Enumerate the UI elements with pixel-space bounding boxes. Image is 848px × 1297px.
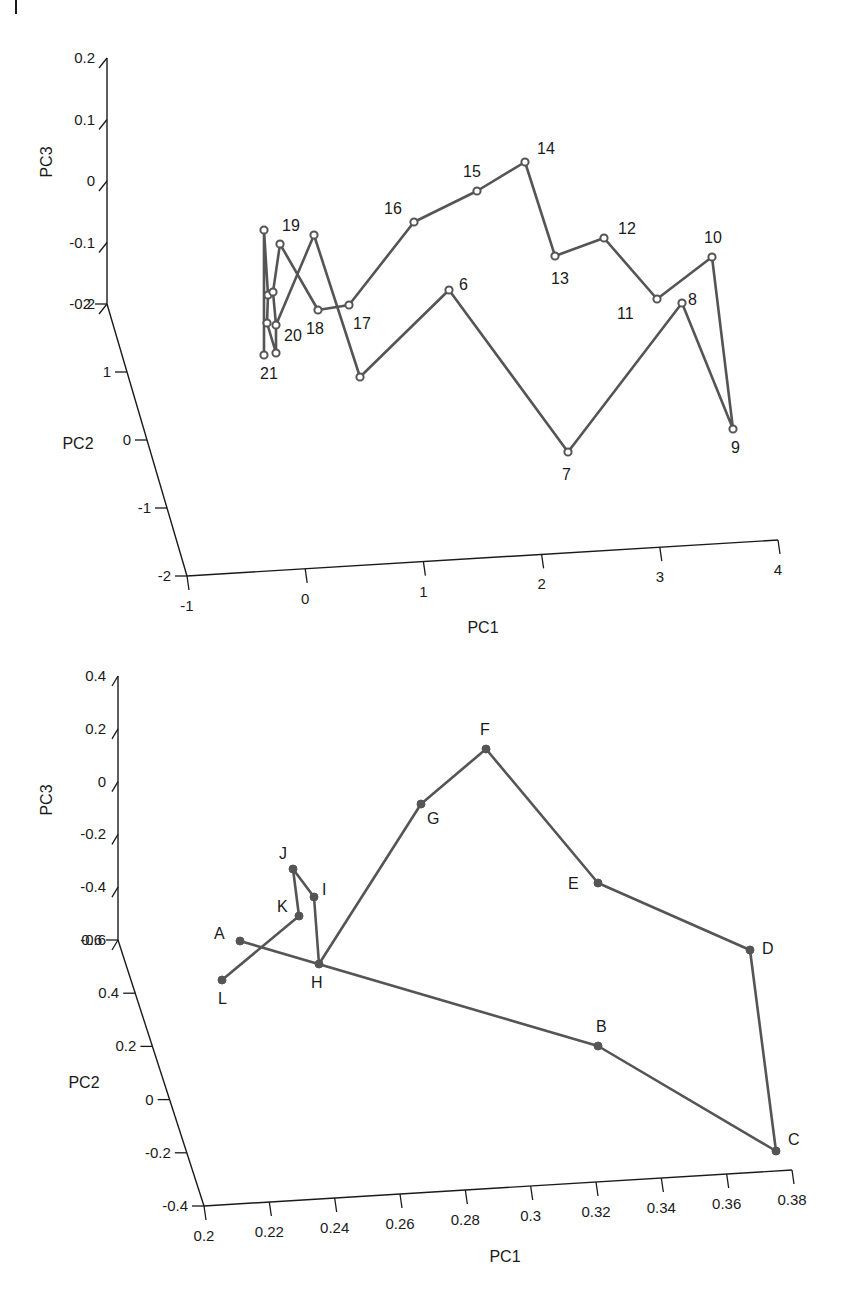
tick-mark — [99, 58, 107, 68]
data-point — [678, 299, 685, 306]
data-point — [521, 158, 528, 165]
tick-label: 0 — [145, 1091, 153, 1108]
data-point — [653, 295, 660, 302]
data-point — [600, 234, 607, 241]
tick-label: 2 — [83, 295, 91, 312]
tick-mark — [660, 547, 662, 561]
point-label: 14 — [537, 140, 555, 157]
point-label: K — [277, 898, 288, 915]
tick-mark — [112, 729, 118, 739]
tick-mark — [465, 1190, 467, 1204]
point-label: B — [596, 1018, 607, 1035]
pc1-axis-label: PC1 — [467, 619, 498, 636]
point-label: 11 — [617, 305, 634, 322]
axes: 0.20.10-0.1-0.2210-1-2-101234PC3PC2PC1 — [38, 49, 782, 636]
tick-label: -1 — [138, 499, 151, 516]
tick-mark — [727, 1174, 729, 1188]
tick-label: 0.2 — [194, 1227, 215, 1244]
data-point-g — [417, 800, 425, 808]
point-label: 10 — [704, 229, 722, 246]
tick-label: 0.4 — [85, 667, 106, 684]
tick-mark — [596, 1182, 598, 1196]
data-point — [310, 231, 317, 238]
pc3-axis-label: PC3 — [38, 146, 55, 177]
tick-mark — [204, 1206, 206, 1220]
point-label: G — [427, 810, 439, 827]
data-point — [473, 187, 480, 194]
tick-mark — [269, 1202, 271, 1216]
tick-label: -0.1 — [69, 234, 95, 251]
tick-mark — [335, 1198, 337, 1212]
point-label: 12 — [618, 220, 636, 237]
point-label: 8 — [688, 291, 697, 308]
data-point — [708, 253, 715, 260]
data-point — [551, 252, 558, 259]
data-point — [345, 301, 352, 308]
data-point — [564, 448, 571, 455]
tick-mark — [187, 576, 189, 590]
data-point-d — [746, 946, 754, 954]
point-label: 7 — [562, 466, 571, 483]
point-label: 13 — [551, 270, 569, 287]
data-point — [356, 373, 363, 380]
tick-mark — [531, 1186, 533, 1200]
trajectory-line — [264, 162, 733, 452]
tick-label: 2 — [537, 575, 545, 592]
trajectory-polyline — [222, 749, 776, 1151]
tick-mark — [542, 554, 544, 568]
tick-mark — [792, 1170, 794, 1184]
data-point-e — [594, 879, 602, 887]
tick-label: 0.2 — [116, 1037, 137, 1054]
tick-mark — [423, 562, 425, 576]
tick-label: 0.36 — [712, 1195, 741, 1212]
point-label: 19 — [282, 217, 300, 234]
data-point — [314, 306, 321, 313]
trajectory-line — [222, 749, 776, 1151]
data-point — [263, 319, 270, 326]
tick-label: 0 — [87, 172, 95, 189]
tick-label: 0.1 — [74, 111, 95, 128]
pca-3d-plot-bottom: 0.40.20-0.2-0.4-0.60.60.40.20-0.2-0.40.2… — [38, 667, 807, 1265]
tick-label: 0.4 — [98, 984, 119, 1001]
tick-label: -0.2 — [145, 1144, 171, 1161]
tick-label: 0.22 — [255, 1223, 284, 1240]
tick-mark — [305, 569, 307, 583]
tick-label: 1 — [419, 583, 427, 600]
pca-3d-plot-top: 0.20.10-0.1-0.2210-1-2-101234PC3PC2PC1 2… — [38, 49, 782, 636]
tick-label: 0.2 — [74, 49, 95, 66]
data-point-f — [482, 745, 490, 753]
pc2-axis-label: PC2 — [68, 1074, 99, 1091]
tick-mark — [112, 834, 118, 844]
tick-label: -0.4 — [162, 1197, 188, 1214]
data-point — [260, 351, 267, 358]
pc2-axis-label: PC2 — [62, 435, 93, 452]
figure: 0.20.10-0.1-0.2210-1-2-101234PC3PC2PC1 2… — [0, 0, 848, 1297]
data-points — [218, 745, 780, 1155]
tick-label: 0 — [301, 590, 309, 607]
point-label: A — [214, 925, 225, 942]
tick-label: -0.2 — [80, 825, 106, 842]
tick-label: 0 — [98, 773, 106, 790]
tick-label: 1 — [103, 363, 111, 380]
pc2-axis — [118, 940, 204, 1206]
point-label: F — [480, 721, 490, 738]
point-label: 15 — [463, 163, 481, 180]
data-point — [272, 321, 279, 328]
pc1-axis-label: PC1 — [489, 1248, 520, 1265]
point-label: C — [788, 1131, 800, 1148]
pc1-axis — [204, 1170, 792, 1206]
data-point — [729, 425, 736, 432]
tick-label: -2 — [158, 567, 171, 584]
tick-mark — [99, 243, 107, 253]
point-label: I — [322, 881, 326, 898]
tick-label: 0.3 — [520, 1207, 541, 1224]
tick-label: 0.2 — [85, 720, 106, 737]
data-point-h — [315, 960, 323, 968]
tick-mark — [99, 181, 107, 191]
tick-label: 0.32 — [581, 1203, 610, 1220]
data-point — [445, 286, 452, 293]
data-point — [269, 288, 276, 295]
tick-mark — [400, 1194, 402, 1208]
trajectory-polyline — [264, 162, 733, 452]
data-point-j — [289, 865, 297, 873]
